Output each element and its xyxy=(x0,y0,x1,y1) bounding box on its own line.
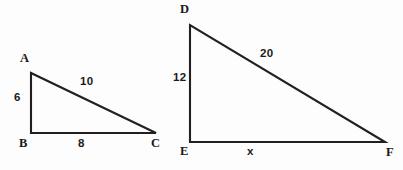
triangle-abc-outline xyxy=(31,73,156,133)
side-label-ef-unknown: x xyxy=(247,146,254,158)
vertex-label-e: E xyxy=(180,145,189,158)
side-label-df: 20 xyxy=(260,48,273,60)
vertex-label-d: D xyxy=(180,3,189,16)
vertex-label-c: C xyxy=(151,137,160,150)
side-label-de: 12 xyxy=(173,72,186,84)
side-label-ac: 10 xyxy=(80,76,93,88)
geometry-figure: A B C 6 8 10 D E F 12 x 20 xyxy=(0,0,403,170)
side-label-bc: 8 xyxy=(78,138,85,150)
vertex-label-a: A xyxy=(20,52,29,65)
geometry-canvas xyxy=(0,0,403,170)
triangle-def-outline xyxy=(190,25,385,142)
vertex-label-f: F xyxy=(386,146,394,159)
vertex-label-b: B xyxy=(19,137,28,150)
side-label-ab: 6 xyxy=(14,92,21,104)
